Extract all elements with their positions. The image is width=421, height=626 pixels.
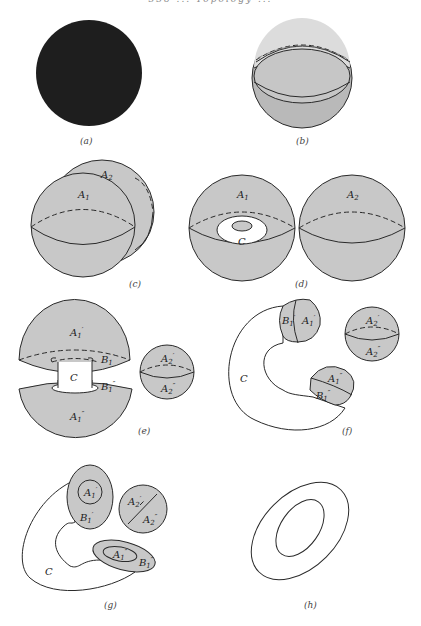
caption-e: (e) [138,426,151,436]
label-g-A2p: A2′ [127,495,142,509]
annulus-outer [233,464,367,598]
panel-a: (a) [36,20,142,146]
label-g-A1p: A1′ [83,486,98,500]
caption-c: (c) [129,279,142,289]
label-f-A2p: A2′ [365,314,380,328]
label-e-C: C [70,372,78,383]
caption-b: (b) [296,136,309,146]
label-C: C [238,236,246,247]
panel-g: A1′ B1′ A2′ A2″ A1″ B1″ C (g) [22,465,167,610]
caption-h: (h) [304,600,317,610]
label-e-A1p: A1′ [69,326,84,340]
label-g-B1p: B1′ [79,511,94,525]
label-f-A1p: A1′ [301,314,316,328]
label-f-C: C [240,373,248,384]
figure-page: 338 ... Topology ... (a) (b) A1 [0,0,421,626]
panel-f: B1′ A1′ A1″ B1″ C A2′ A2″ (f) [229,299,399,436]
panel-c: A1 A2 (c) [31,160,154,289]
dark-sphere [36,20,142,126]
label-f-B1p: B1′ [281,314,296,328]
label-e-A2p: A2′ [160,352,175,366]
panel-d: C A1 A2 (d) [189,175,405,289]
label-g-C: C [45,566,53,577]
panel-h: (h) [233,464,367,610]
panel-b: (b) [252,18,352,146]
caption-a: (a) [80,136,93,146]
panel-e: C A1′ B1′ B1″ A1″ A2′ A2″ (e) [19,299,194,437]
caption-d: (d) [295,279,308,289]
figure-canvas: (a) (b) A1 A2 (c) [0,0,421,626]
equator-b [254,49,350,103]
label-e-B1p: B1′ [100,353,115,367]
caption-f: (f) [342,426,353,436]
caption-g: (g) [104,600,117,610]
